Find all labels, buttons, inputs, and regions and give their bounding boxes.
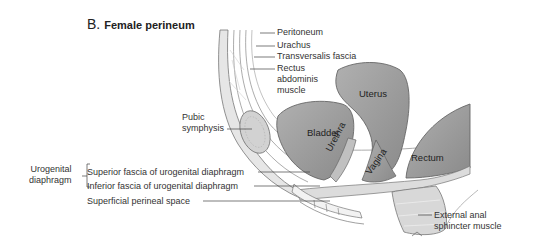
label-peritoneum: Peritoneum — [277, 27, 323, 38]
rectum-shape — [406, 104, 470, 178]
label-inferior-fascia: Inferior fascia of urogenital diaphragm — [87, 181, 238, 192]
label-superior-fascia: Superior fascia of urogenital diaphragm — [87, 167, 244, 178]
label-urachus: Urachus — [277, 40, 311, 51]
organ-label-rectum: Rectum — [411, 152, 444, 163]
label-pubic-symphysis: Pubic symphysis — [182, 112, 224, 134]
organ-label-uterus: Uterus — [359, 88, 387, 99]
label-transversalis-fascia: Transversalis fascia — [277, 51, 356, 62]
label-urogenital-diaphragm: Urogenital diaphragm — [29, 164, 72, 186]
label-rectus-abdominis: Rectus abdominis muscle — [277, 63, 318, 96]
label-superficial-perineal-space: Superficial perineal space — [87, 196, 190, 207]
label-external-anal-sphincter: External anal sphincter muscle — [434, 210, 502, 232]
pubic-symphysis-shape — [234, 107, 275, 158]
